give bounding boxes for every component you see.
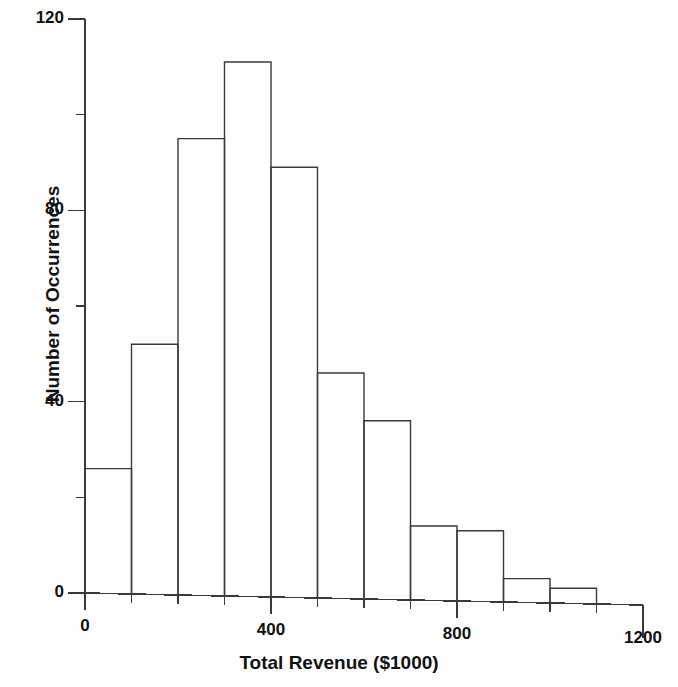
- histogram-bar: [364, 421, 411, 600]
- histogram-bar: [132, 344, 179, 595]
- histogram-plot-area: [0, 0, 678, 687]
- histogram-bar: [85, 469, 132, 594]
- axis-ticks: [68, 19, 643, 622]
- y-axis-title: Number of Occurrences: [42, 144, 64, 444]
- histogram-bar: [457, 531, 504, 602]
- y-axis-tick-label: 120: [14, 8, 64, 28]
- x-axis-tick-label: 400: [231, 620, 311, 640]
- histogram-bar: [411, 526, 458, 601]
- y-axis-tick-label: 0: [14, 582, 64, 602]
- x-axis-title: Total Revenue ($1000): [0, 652, 678, 674]
- histogram-bar: [225, 62, 272, 597]
- x-axis-tick-label: 1200: [603, 628, 678, 648]
- histogram-bar: [318, 373, 365, 599]
- histogram-bar: [271, 167, 318, 598]
- x-axis-tick-label: 0: [45, 616, 125, 636]
- histogram-bars: [85, 62, 597, 604]
- histogram-bar: [550, 588, 597, 604]
- histogram-bar: [504, 579, 551, 603]
- chart-figure: 04080120 04008001200 Number of Occurrenc…: [0, 0, 678, 687]
- histogram-bar: [178, 139, 225, 596]
- x-axis-tick-label: 800: [417, 624, 497, 644]
